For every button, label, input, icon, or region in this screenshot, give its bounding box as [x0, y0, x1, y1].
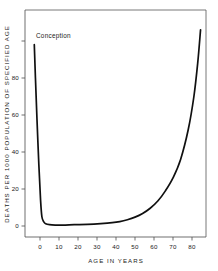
- x-tick-label-30: 30: [93, 243, 101, 250]
- x-tick-label-70: 70: [169, 243, 177, 250]
- y-tick-label-60: 60: [12, 111, 20, 118]
- x-tick-label-20: 20: [74, 243, 82, 250]
- x-tick-label-10: 10: [55, 243, 63, 250]
- y-tick-label-80: 80: [12, 74, 20, 81]
- y-axis-title: DEATHS PER 1000 POPULATION OF SPECIFIED …: [3, 25, 10, 223]
- x-tick-label-60: 60: [150, 243, 158, 250]
- y-tick-label-0: 0: [15, 222, 19, 229]
- x-axis-tick-labels: 0 10 20 30 40 50 60 70 80: [38, 243, 196, 250]
- x-tick-label-50: 50: [131, 243, 139, 250]
- y-tick-label-40: 40: [12, 148, 20, 155]
- y-tick-label-20: 20: [12, 185, 20, 192]
- y-axis-tick-labels: 0 20 40 60 80: [12, 74, 20, 229]
- conception-annotation-label: Conception: [36, 32, 71, 40]
- x-axis-ticks: [40, 237, 192, 241]
- x-tick-label-0: 0: [38, 243, 42, 250]
- mortality-chart: 0 20 40 60 80 0 10 20 30 40 50 60 70: [0, 0, 218, 271]
- x-tick-label-40: 40: [112, 243, 120, 250]
- x-axis-title: AGE IN YEARS: [88, 257, 144, 264]
- y-axis-ticks: [22, 41, 26, 226]
- x-tick-label-80: 80: [188, 243, 196, 250]
- death-rate-curve: [34, 30, 200, 225]
- plot-frame-border: [25, 10, 206, 237]
- chart-canvas: 0 20 40 60 80 0 10 20 30 40 50 60 70: [0, 0, 218, 271]
